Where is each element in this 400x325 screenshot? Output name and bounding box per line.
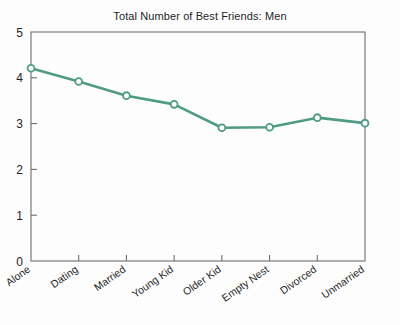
x-tick-label: Unmarried (319, 263, 366, 301)
x-tick-label: Older Kid (180, 263, 223, 298)
y-tick-label: 0 (16, 255, 23, 269)
data-series-markers (28, 65, 369, 131)
chart-figure: Total Number of Best Friends: Men AloneD… (0, 0, 400, 325)
x-axis-labels: AloneDatingMarriedYoung KidOlder KidEmpt… (3, 263, 366, 304)
y-axis-labels: 543210 (16, 26, 23, 269)
data-point-marker (75, 78, 82, 85)
data-point-marker (266, 124, 273, 131)
data-point-marker (362, 120, 369, 127)
x-tick-label: Young Kid (129, 263, 175, 300)
data-point-marker (123, 92, 130, 99)
x-tick-label: Divorced (278, 263, 319, 297)
y-tick-label: 3 (16, 117, 23, 131)
y-tick-label: 4 (16, 71, 23, 85)
data-point-marker (171, 101, 178, 108)
y-axis-ticks (31, 78, 37, 215)
y-tick-label: 1 (16, 209, 23, 223)
data-point-marker (28, 65, 35, 72)
x-tick-label: Married (92, 263, 128, 293)
x-axis-ticks (79, 255, 318, 261)
y-tick-label: 5 (16, 26, 23, 40)
data-point-marker (314, 114, 321, 121)
x-tick-label: Empty Nest (219, 263, 270, 304)
data-point-marker (218, 124, 225, 131)
x-tick-label: Dating (48, 263, 80, 290)
line-chart-plot: AloneDatingMarriedYoung KidOlder KidEmpt… (0, 0, 400, 325)
plot-frame (31, 32, 365, 261)
y-tick-label: 2 (16, 163, 23, 177)
